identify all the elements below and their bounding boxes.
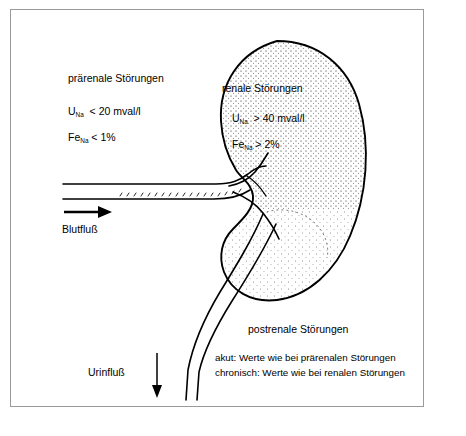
postrenal-acute-line: akut: Werte wie bei prärenalen Störungen (215, 352, 396, 363)
prerenal-fena-prefix: Fe (68, 131, 80, 143)
postrenal-title: postrenale Störungen (248, 323, 348, 335)
prerenal-una-text: < 20 mval/l (90, 105, 141, 117)
renal-una-prefix: U (232, 112, 240, 124)
prerenal-fena-text: < 1% (91, 131, 115, 143)
blood-flow-label: Blutfluß (62, 223, 98, 235)
renal-una-subscript: Na (240, 118, 248, 125)
prerenal-title: prärenale Störungen (68, 72, 164, 84)
prerenal-una-value: UNa < 20 mval/l (68, 105, 141, 117)
renal-fena-value: FeNa > 2% (232, 138, 280, 150)
renal-title: renale Störungen (222, 82, 303, 94)
renal-fena-subscript: Na (244, 144, 252, 151)
renal-una-value: UNa > 40 mval/l (232, 112, 305, 124)
renal-fena-prefix: Fe (232, 138, 244, 150)
arrow-right-icon (64, 206, 112, 218)
urine-flow-label: Urinfluß (88, 366, 125, 378)
prerenal-una-subscript: Na (76, 111, 84, 118)
arrow-down-icon (152, 353, 162, 398)
renal-fena-text: > 2% (255, 138, 279, 150)
postrenal-chronic-line: chronisch: Werte wie bei renalen Störung… (215, 367, 405, 378)
kidney-figure: prärenale Störungen UNa < 20 mval/l FeNa… (0, 0, 466, 436)
prerenal-fena-value: FeNa < 1% (68, 131, 116, 143)
renal-una-text: > 40 mval/l (254, 112, 305, 124)
prerenal-una-prefix: U (68, 105, 76, 117)
prerenal-fena-subscript: Na (80, 137, 88, 144)
